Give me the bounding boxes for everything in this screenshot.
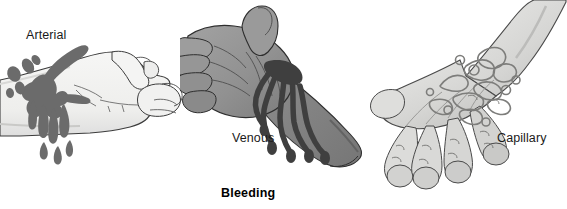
label-capillary: Capillary (497, 131, 547, 145)
figure-title: Bleeding (221, 186, 275, 200)
panel-capillary (370, 0, 567, 209)
label-venous: Venous (232, 131, 274, 145)
panel-venous (180, 0, 375, 209)
label-arterial: Arterial (26, 28, 66, 42)
capillary-hand-illustration (370, 0, 566, 189)
bleeding-figure: Arterial Venous Capillary Bleeding (0, 0, 567, 209)
